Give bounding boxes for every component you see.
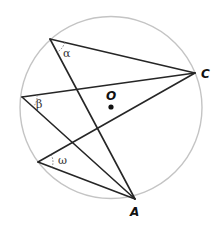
chord-alpha-to-c <box>50 39 195 73</box>
center-label: O <box>106 89 116 103</box>
point-label-a: A <box>129 205 139 219</box>
angle-arc-omega <box>51 155 53 168</box>
angle-label-omega: ω <box>58 154 67 167</box>
chord-beta-to-a <box>22 97 135 199</box>
inscribed-angles-diagram: α β ω O C A <box>0 0 218 226</box>
angle-label-beta: β <box>36 98 42 111</box>
angle-label-alpha: α <box>63 47 71 60</box>
point-label-c: C <box>201 67 210 81</box>
chord-omega-to-a <box>38 162 135 199</box>
chord-omega-to-c <box>38 73 195 162</box>
chord-alpha-to-a <box>50 39 135 199</box>
center-point <box>108 104 113 109</box>
